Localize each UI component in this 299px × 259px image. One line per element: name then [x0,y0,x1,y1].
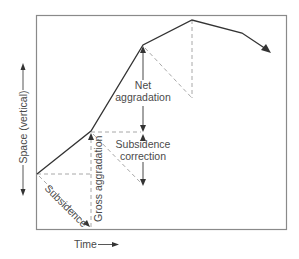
x-axis-label-group: Time [74,238,119,250]
subsidence-correction-label-1: Subsidence [116,138,171,150]
y-axis-down-arrowhead [21,189,26,196]
diagram-canvas: Net aggradation Subsidence correction Gr… [0,0,299,259]
net-aggradation-label-1: Net [135,79,151,91]
x-axis-label: Time [74,238,97,250]
subsidence-correction-down-arrowhead [140,179,146,186]
path-end-arrowhead [261,44,271,53]
plot-frame [37,16,287,230]
x-axis-arrowhead [112,242,119,247]
subsidence-label: Subsidence [43,182,90,229]
subsidence-correction-label-2: correction [120,150,166,162]
gross-aggradation-label: Gross aggradation [92,135,104,222]
net-aggradation-label-2: aggradation [115,91,171,103]
y-axis-label-group: Space (vertical) [17,63,29,196]
y-axis-up-arrowhead [21,63,26,70]
net-aggradation-down-arrowhead [140,125,146,132]
y-axis-label: Space (vertical) [17,91,29,164]
